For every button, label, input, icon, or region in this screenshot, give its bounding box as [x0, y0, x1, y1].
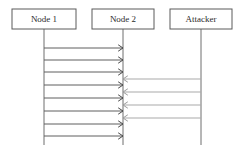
lifelines-group	[44, 29, 201, 145]
sequence-diagram-canvas: Node 1Node 2Attacker	[0, 0, 242, 153]
sequence-diagram-svg: Node 1Node 2Attacker	[0, 0, 242, 153]
messages-group	[44, 45, 201, 139]
actor-label-attacker: Attacker	[186, 14, 217, 24]
actor-label-node-1: Node 1	[31, 14, 57, 24]
actor-label-node-2: Node 2	[110, 14, 136, 24]
actors-group: Node 1Node 2Attacker	[12, 9, 232, 29]
